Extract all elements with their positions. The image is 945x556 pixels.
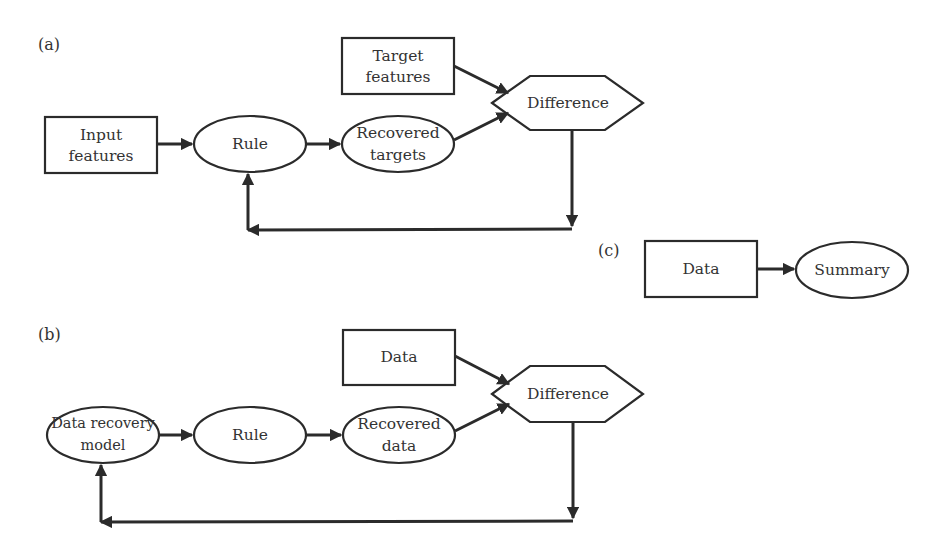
node-target-features-line2: features [366,68,431,86]
node-b-data: Data [343,330,455,385]
edge-b-feedback-horizontal [101,521,573,522]
panel-a: (a) Input features Rule Recovered target… [38,35,643,230]
node-b-data-label: Data [380,348,417,366]
node-difference-label: Difference [527,94,609,112]
node-c-data: Data [645,241,757,297]
node-input-features-line1: Input [80,126,123,144]
diagram-canvas: (a) Input features Rule Recovered target… [0,0,945,556]
node-rule: Rule [194,116,306,172]
edge-feedback-horizontal [248,229,572,230]
node-b-difference-label: Difference [527,385,609,403]
panel-a-label: (a) [38,35,60,54]
node-b-rule: Rule [194,407,306,463]
node-recovered-data-line2: data [382,437,417,455]
node-recovered-data: Recovered data [343,407,455,463]
node-c-summary-label: Summary [814,261,890,279]
edge-data-to-difference [455,356,509,384]
node-data-recovery-model-line1: Data recovery [51,415,155,431]
node-data-recovery-model-line2: model [81,437,126,453]
node-input-features-line2: features [69,147,134,165]
node-b-difference: Difference [492,366,643,422]
node-recovered-targets-line2: targets [370,146,426,164]
node-recovered-targets-line1: Recovered [356,124,439,142]
panel-b: (b) Data recovery model Rule Recovered d… [38,325,643,522]
node-c-summary: Summary [796,242,908,298]
panel-b-label: (b) [38,325,61,344]
panel-c-label: (c) [598,241,619,260]
node-target-features: Target features [342,38,454,94]
node-b-rule-label: Rule [232,426,268,444]
node-recovered-data-line1: Recovered [357,415,440,433]
node-rule-label: Rule [232,135,268,153]
edge-recovered-to-difference [454,113,508,140]
node-difference: Difference [492,76,643,130]
node-c-data-label: Data [682,260,719,278]
node-target-features-line1: Target [372,47,424,65]
node-data-recovery-model: Data recovery model [47,407,159,463]
node-input-features: Input features [45,117,157,173]
node-recovered-targets: Recovered targets [342,116,454,172]
edge-recovered-data-to-difference [455,404,509,431]
panel-c: (c) Data Summary [598,241,908,298]
edge-target-to-difference [454,66,508,93]
